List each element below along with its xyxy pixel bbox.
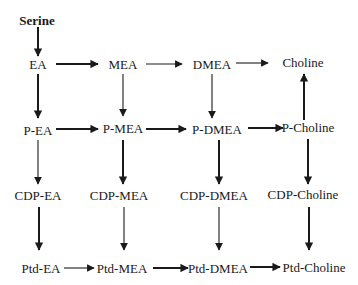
node-ptd-dmea: Ptd-DMEA [188,262,248,275]
node-choline: Choline [282,56,323,69]
node-cdp-mea: CDP-MEA [90,189,149,202]
arrows-layer [0,0,358,285]
node-p-mea: P-MEA [103,122,143,135]
node-serine: Serine [19,14,54,27]
node-p-choline: P-Choline [282,121,335,134]
node-ptd-choline: Ptd-Choline [283,261,346,274]
node-cdp-dmea: CDP-DMEA [180,189,248,202]
node-p-ea: P-EA [24,124,53,137]
node-ptd-mea: Ptd-MEA [97,262,148,275]
node-cdp-ea: CDP-EA [15,189,62,202]
node-mea: MEA [109,58,138,71]
node-p-dmea: P-DMEA [192,123,242,136]
node-cdp-choline: CDP-Choline [268,188,339,201]
pathway-diagram: Serine EA MEA DMEA Choline P-EA P-MEA P-… [0,0,358,285]
node-dmea: DMEA [193,58,231,71]
node-ptd-ea: Ptd-EA [22,262,61,275]
node-ea: EA [29,58,46,71]
